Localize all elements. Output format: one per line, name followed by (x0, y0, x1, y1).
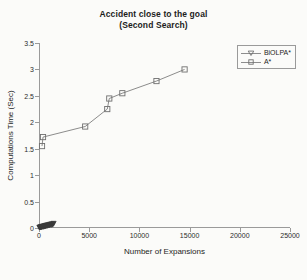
y-tick-label: 2 (30, 119, 34, 126)
series-biolpastar (37, 221, 56, 230)
chart-legend: BiOLPA* A* (237, 45, 296, 69)
legend-item-astar[interactable]: A* (241, 57, 291, 66)
chart-figure: Accident close to the goal (Second Searc… (0, 0, 307, 280)
y-tick-label: 1 (30, 172, 34, 179)
y-tick-label: 0 (30, 225, 34, 232)
legend-label-astar: A* (264, 57, 271, 66)
x-tick-label: 15000 (180, 232, 199, 239)
legend-label-biolpa: BiOLPA* (264, 48, 291, 57)
y-tick-label: 3.5 (24, 40, 34, 47)
y-axis-label: Computations Time (Sec) (4, 43, 16, 228)
chart-title: Accident close to the goal (Second Searc… (0, 9, 307, 31)
chart-title-line1: Accident close to the goal (0, 9, 307, 20)
x-tick-label: 20000 (230, 232, 249, 239)
legend-marker-square-icon (241, 57, 261, 66)
series-layer (39, 43, 290, 228)
x-axis-label: Number of Expansions (39, 247, 290, 256)
y-tick-label: 0.5 (24, 198, 34, 205)
y-tick-label: 1.5 (24, 145, 34, 152)
x-tick-label: 0 (37, 232, 41, 239)
series-astar (39, 67, 187, 149)
y-tick-label: 3 (30, 66, 34, 73)
plot-area: 00.511.522.533.5 05000100001500020000250… (39, 43, 290, 228)
y-tick-label: 2.5 (24, 92, 34, 99)
x-tick-label: 10000 (130, 232, 149, 239)
chart-title-line2: (Second Search) (0, 20, 307, 31)
series-line (42, 69, 185, 146)
legend-marker-triangle-down-icon (241, 48, 261, 57)
x-tick-label: 5000 (81, 232, 97, 239)
legend-item-biolpa[interactable]: BiOLPA* (241, 48, 291, 57)
x-tick-label: 25000 (280, 232, 299, 239)
